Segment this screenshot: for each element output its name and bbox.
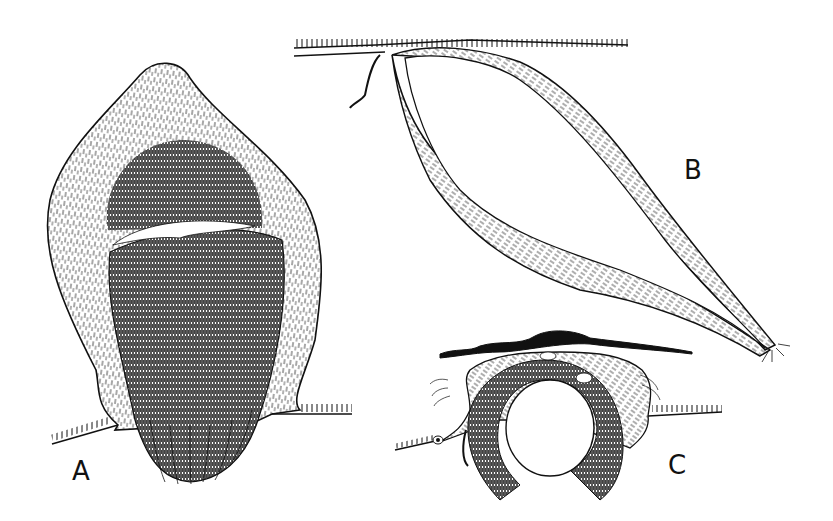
- figure-drawing: [0, 0, 833, 521]
- panel-label-a: A: [72, 458, 90, 484]
- panel-b-drawing: [294, 39, 790, 362]
- figure: A B C: [0, 0, 833, 521]
- panel-a-drawing: [47, 63, 352, 484]
- panel-label-c: C: [668, 452, 686, 478]
- panel-label-b: B: [684, 157, 702, 183]
